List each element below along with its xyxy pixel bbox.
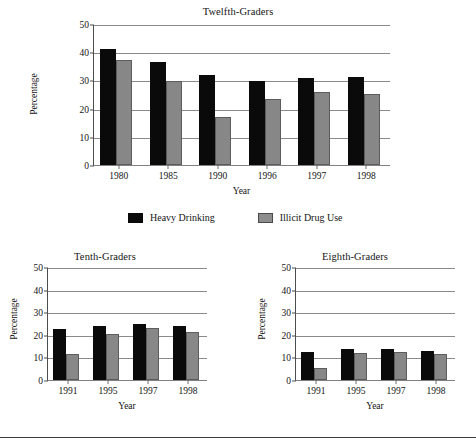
gridline [296,291,455,292]
y-axis-label-tenth: Percentage [9,279,19,359]
gridline [296,336,455,337]
bar-illicit-drug-use-1997 [146,328,159,380]
bar-heavy-drinking-1997 [133,324,146,380]
gridline [94,110,390,111]
y-axis-tick-mark [90,25,94,26]
y-axis-tick-mark [292,381,296,382]
bar-illicit-drug-use-1998 [364,94,380,165]
x-axis-tick-mark [217,165,218,169]
y-axis-tick-mark [292,268,296,269]
gridline [48,268,207,269]
gridline [94,25,390,26]
x-axis-label-eighth: Year [295,401,455,411]
bar-illicit-drug-use-1991 [314,368,327,380]
x-axis-tick-mark [316,165,317,169]
x-axis-tick-mark [118,165,119,169]
bar-illicit-drug-use-1990 [215,117,231,166]
gridline [94,53,390,54]
bar-heavy-drinking-1980 [100,49,116,165]
y-axis-tick-mark [90,81,94,82]
x-axis-tick-mark [436,380,437,384]
y-axis-tick-mark [90,53,94,54]
x-axis-tick-mark [267,165,268,169]
chart-title-eighth: Eighth-Graders [236,251,474,262]
bar-heavy-drinking-1991 [53,329,66,380]
bar-heavy-drinking-1998 [173,326,186,380]
y-axis-tick-mark [90,137,94,138]
gridline [94,81,390,82]
y-axis-tick-mark [292,358,296,359]
plot-area-twelfth: 01020304050198019851990199619971998 [93,25,390,166]
bar-heavy-drinking-1998 [421,351,434,380]
legend: Heavy Drinking Illicit Drug Use [128,212,342,223]
bar-heavy-drinking-1990 [199,75,215,165]
y-axis-tick-mark [44,268,48,269]
y-axis-tick-mark [90,109,94,110]
y-axis-tick-mark [44,313,48,314]
bar-illicit-drug-use-1995 [354,353,367,380]
y-axis-tick-mark [44,290,48,291]
bar-illicit-drug-use-1991 [66,354,79,380]
gridline [48,313,207,314]
y-axis-label-twelfth: Percentage [29,54,39,134]
legend-label-illicit-drug-use: Illicit Drug Use [280,212,343,223]
bar-heavy-drinking-1995 [341,349,354,380]
bar-illicit-drug-use-1997 [314,92,330,165]
x-axis-tick-mark [68,380,69,384]
gridline [296,268,455,269]
x-axis-tick-mark [316,380,317,384]
y-axis-tick-mark [44,335,48,336]
x-axis-tick-mark [108,380,109,384]
bar-illicit-drug-use-1980 [116,60,132,165]
x-axis-label-twelfth: Year [93,186,390,196]
x-axis-tick-mark [366,165,367,169]
x-axis-tick-mark [188,380,189,384]
chart-tenth-graders: Tenth-Graders Percentage 010203040501991… [0,248,238,442]
x-axis-tick-mark [396,380,397,384]
x-axis-tick-mark [168,165,169,169]
legend-entry-illicit-drug-use: Illicit Drug Use [258,212,343,223]
bar-heavy-drinking-1996 [249,81,265,165]
chart-title-tenth: Tenth-Graders [0,251,224,262]
chart-eighth-graders: Eighth-Graders Percentage 01020304050199… [238,248,476,442]
bar-heavy-drinking-1995 [93,326,106,380]
y-axis-tick-mark [292,290,296,291]
bar-heavy-drinking-1985 [150,62,166,165]
x-axis-label-tenth: Year [47,401,207,411]
x-axis-tick-mark [148,380,149,384]
bar-heavy-drinking-1997 [298,78,314,165]
chart-title-twelfth: Twelfth-Graders [0,6,476,17]
legend-swatch-illicit-drug-use-icon [258,213,273,223]
y-axis-tick-mark [90,166,94,167]
gridline [48,291,207,292]
gridline [94,138,390,139]
bar-illicit-drug-use-1985 [166,81,182,165]
gridline [296,313,455,314]
plot-area-tenth: 010203040501991199519971998 [47,268,207,381]
bar-illicit-drug-use-1998 [186,332,199,380]
legend-swatch-heavy-drinking-icon [128,213,143,223]
bar-heavy-drinking-1997 [381,349,394,380]
legend-label-heavy-drinking: Heavy Drinking [150,212,215,223]
plot-area-eighth: 010203040501991199519971998 [295,268,455,381]
y-axis-tick-mark [44,381,48,382]
y-axis-tick-mark [44,358,48,359]
bar-heavy-drinking-1998 [348,77,364,165]
bar-illicit-drug-use-1997 [394,352,407,380]
bar-illicit-drug-use-1995 [106,334,119,380]
y-axis-tick-mark [292,335,296,336]
bar-illicit-drug-use-1998 [434,354,447,380]
chart-twelfth-graders: Twelfth-Graders Percentage 0102030405019… [0,0,476,200]
bar-heavy-drinking-1991 [301,352,314,380]
legend-entry-heavy-drinking: Heavy Drinking [128,212,215,223]
y-axis-label-eighth: Percentage [257,279,267,359]
y-axis-tick-mark [292,313,296,314]
x-axis-tick-mark [356,380,357,384]
bar-illicit-drug-use-1996 [265,99,281,165]
footer-divider [0,437,476,438]
